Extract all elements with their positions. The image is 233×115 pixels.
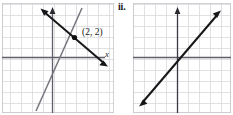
graph-panel-ii [133,3,231,113]
point-coordinate-label: (2, 2) [82,27,103,37]
y-axis-arrowhead [175,7,181,14]
line-arrowhead-start [139,99,147,106]
panel-ii-svg [133,3,231,113]
x-axis-label: x [105,50,109,59]
line-arrowhead-end [213,11,221,18]
panel-i-svg [2,3,114,113]
panel-ii-roman-label: ii. [118,1,125,12]
line-positive-slope [142,14,218,103]
graph-panel-i [2,3,114,113]
graph-figure: (2, 2) x ii. [0,0,233,115]
intersection-point [72,35,77,40]
